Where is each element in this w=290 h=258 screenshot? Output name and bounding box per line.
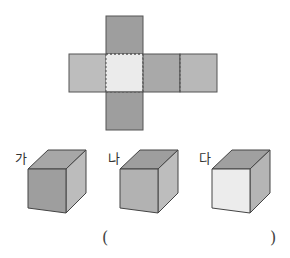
net-face-left: [69, 54, 106, 92]
net-face-bottom: [106, 92, 143, 130]
answer-close-paren: ): [270, 228, 276, 247]
cube-option-da[interactable]: [210, 145, 274, 215]
cube-option-ga[interactable]: [26, 145, 90, 215]
cube-option-na[interactable]: [118, 145, 182, 215]
cube-net-diagram: [0, 0, 290, 140]
answer-open-paren: (: [102, 228, 108, 247]
net-face-center: [106, 54, 143, 92]
net-face-right2: [180, 54, 217, 92]
net-face-top: [106, 16, 143, 54]
net-face-right1: [143, 54, 180, 92]
